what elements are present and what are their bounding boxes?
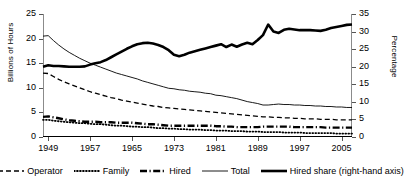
y-tick-right (352, 14, 356, 15)
y-axis-right-tick-label: 30 (359, 26, 385, 36)
series-line (43, 36, 352, 108)
series-line (43, 25, 352, 67)
y-axis-right-tick-label: 10 (359, 96, 385, 106)
y-axis-right-tick-label: 35 (359, 8, 385, 18)
x-axis-tick-label: 1949 (28, 143, 68, 153)
y-tick-right (352, 67, 356, 68)
legend-item[interactable]: Total (202, 166, 250, 176)
y-tick-right (352, 84, 356, 85)
x-tick (342, 137, 343, 141)
y-axis-right-tick-label: 15 (359, 78, 385, 88)
legend-label: Family (103, 166, 130, 176)
x-axis-tick-label: 1989 (238, 143, 278, 153)
y-axis-right-tick-label: 5 (359, 113, 385, 123)
x-axis-tick-label: 2005 (322, 143, 362, 153)
y-axis-right-tick-label: 0 (359, 131, 385, 141)
y-axis-left-tick-label: 0 (10, 131, 36, 141)
chart-legend: OperatorFamilyHiredTotalHired share (rig… (0, 160, 402, 182)
y-axis-right-tick-label: 25 (359, 43, 385, 53)
x-tick (300, 137, 301, 141)
y-axis-left-tick-label: 20 (10, 33, 36, 43)
x-axis-tick-label: 1965 (112, 143, 152, 153)
x-tick (132, 137, 133, 141)
legend-item[interactable]: Hired (140, 166, 191, 176)
x-tick (48, 137, 49, 141)
legend-label: Total (231, 166, 250, 176)
x-axis-tick-label: 1997 (280, 143, 320, 153)
legend-label: Hired share (right-hand axis) (290, 166, 404, 176)
x-tick (258, 137, 259, 141)
thick-dash-dot-line-swatch (140, 166, 166, 176)
plot-area (43, 14, 352, 137)
legend-item[interactable]: Hired share (right-hand axis) (261, 166, 404, 176)
thin-solid-line-swatch (202, 166, 228, 176)
dashed-line-swatch (0, 166, 24, 176)
series-line (43, 73, 352, 120)
y-tick-right (352, 119, 356, 120)
y-axis-left-tick-label: 15 (10, 57, 36, 67)
x-axis-tick-label: 1981 (196, 143, 236, 153)
y-tick-right (352, 32, 356, 33)
y-axis-left-tick-label: 25 (10, 8, 36, 18)
x-tick (216, 137, 217, 141)
y-axis-left-tick-label: 5 (10, 106, 36, 116)
x-tick (174, 137, 175, 141)
y-tick-left (39, 137, 43, 138)
legend-label: Hired (169, 166, 191, 176)
y-axis-left-tick-label: 10 (10, 82, 36, 92)
legend-item[interactable]: Family (74, 166, 130, 176)
x-axis-tick-label: 1973 (154, 143, 194, 153)
dotted-line-swatch (74, 166, 100, 176)
legend-item[interactable]: Operator (0, 166, 63, 176)
y-tick-right (352, 102, 356, 103)
y-tick-right (352, 49, 356, 50)
y-axis-right-title: Percentage (390, 21, 399, 93)
y-axis-right-tick-label: 20 (359, 61, 385, 71)
series-line (43, 116, 352, 127)
x-axis-tick-label: 1957 (70, 143, 110, 153)
series-lines (43, 14, 352, 137)
legend-label: Operator (27, 166, 63, 176)
y-tick-right (352, 137, 356, 138)
x-tick (90, 137, 91, 141)
thick-solid-line-swatch (261, 166, 287, 176)
